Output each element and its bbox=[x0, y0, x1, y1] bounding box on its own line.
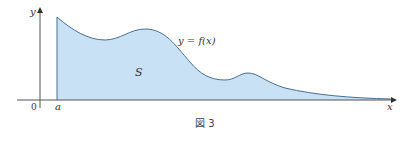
x-axis-label: x bbox=[387, 101, 393, 112]
a-label: a bbox=[55, 101, 61, 112]
region-s-label: S bbox=[135, 66, 143, 79]
origin-label: 0 bbox=[31, 102, 37, 112]
y-axis-label: y bbox=[29, 6, 36, 17]
area-under-curve-figure: y 0 a S y = f(x) x 図 3 bbox=[0, 0, 407, 143]
curve-label: y = f(x) bbox=[177, 35, 216, 46]
region-s-fill bbox=[57, 17, 392, 100]
figure-caption: 図 3 bbox=[195, 118, 215, 129]
